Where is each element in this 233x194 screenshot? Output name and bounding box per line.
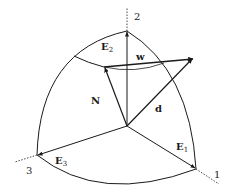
axis-3-dotted-extension (15, 155, 37, 162)
vector-w (104, 59, 193, 67)
spherical-octant-diagram: 2 3 1 E2 E3 E1 N d w (0, 0, 233, 194)
axis-2-label: 2 (134, 11, 140, 22)
axis-1-label: 1 (214, 169, 220, 180)
w-label: w (135, 51, 145, 62)
arc-2-to-3 (37, 31, 127, 155)
N-label: N (91, 95, 100, 106)
vector-N (105, 68, 127, 126)
axis-3-label: 3 (26, 165, 32, 176)
E2-label: E2 (101, 41, 113, 54)
E3-label: E3 (55, 155, 67, 168)
latitude-curve (74, 56, 104, 67)
E1-label: E1 (176, 141, 188, 154)
d-label: d (155, 103, 162, 114)
vector-E3 (38, 126, 127, 155)
